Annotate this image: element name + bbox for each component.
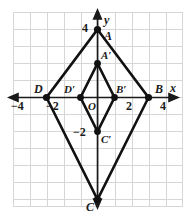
point-A: [94, 26, 101, 33]
tick-label-y-neg2: −2: [73, 125, 86, 139]
label-x-axis: x: [169, 81, 176, 95]
label-D: D: [33, 82, 43, 96]
tick-label-x-pos2: 2: [126, 99, 132, 113]
point-A-prime: [94, 60, 101, 67]
label-C: C: [86, 200, 95, 214]
point-D-prime: [77, 94, 84, 101]
point-B-prime: [111, 94, 118, 101]
label-C-prime: C′: [101, 133, 111, 145]
tick-label-x-neg4: −4: [11, 99, 24, 113]
tick-label-x-neg2: −2: [46, 99, 59, 113]
point-B: [145, 94, 152, 101]
tick-label-x-pos4: 4: [160, 99, 166, 113]
label-A: A: [103, 29, 112, 43]
label-y-axis: y: [102, 13, 110, 27]
label-D-prime: D′: [63, 83, 75, 95]
point-C: [94, 196, 101, 203]
label-B-prime: B′: [115, 83, 126, 95]
label-origin: O: [88, 100, 96, 112]
point-C-prime: [94, 128, 101, 135]
coordinate-plane-figure: A B C D A′ B′ C′ D′ y x O −4 −2 2 4 4 −2: [0, 0, 188, 214]
tick-label-y-pos4: 4: [82, 21, 88, 35]
graph-svg: A B C D A′ B′ C′ D′ y x O −4 −2 2 4 4 −2: [0, 0, 188, 214]
label-B: B: [154, 82, 163, 96]
label-A-prime: A′: [100, 49, 111, 61]
